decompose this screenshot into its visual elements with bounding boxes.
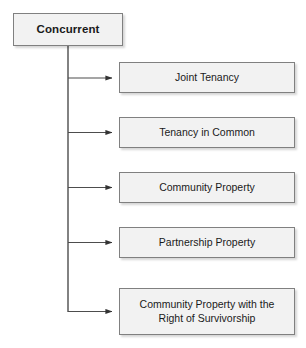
node-partnership-property: Partnership Property [119, 227, 295, 258]
node-concurrent-label: Concurrent [33, 22, 104, 36]
node-joint-tenancy: Joint Tenancy [119, 62, 295, 93]
node-partnership-property-label: Partnership Property [155, 236, 259, 249]
node-tenancy-in-common: Tenancy in Common [119, 117, 295, 148]
node-community-property-with-right-of-survivorship-label: Community Property with the Right of Sur… [136, 298, 279, 324]
node-joint-tenancy-label: Joint Tenancy [171, 71, 243, 84]
node-tenancy-in-common-label: Tenancy in Common [155, 126, 259, 139]
node-community-property-label: Community Property [155, 181, 259, 194]
node-community-property: Community Property [119, 172, 295, 203]
node-community-property-with-right-of-survivorship: Community Property with the Right of Sur… [119, 288, 295, 335]
node-concurrent: Concurrent [13, 13, 123, 46]
concurrent-ownership-diagram: Concurrent Joint Tenancy Tenancy in Comm… [0, 0, 306, 348]
